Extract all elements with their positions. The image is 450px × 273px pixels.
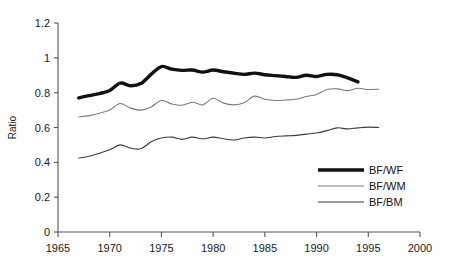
series-line-BF-WF bbox=[79, 66, 358, 98]
x-tick-label: 1985 bbox=[253, 242, 277, 254]
y-tick-label: 0.4 bbox=[35, 156, 50, 168]
y-tick-label: 1 bbox=[44, 52, 50, 64]
y-axis-title: Ratio bbox=[7, 115, 18, 139]
y-tick-label: 1.2 bbox=[35, 17, 50, 29]
y-tick-label: 0.2 bbox=[35, 191, 50, 203]
legend-label-BF-WF: BF/WF bbox=[369, 164, 403, 176]
x-tick-label: 1995 bbox=[356, 242, 380, 254]
y-tick-label: 0.8 bbox=[35, 87, 50, 99]
x-tick-label: 1975 bbox=[149, 242, 173, 254]
x-tick-label: 1970 bbox=[97, 242, 121, 254]
y-tick-label: 0.6 bbox=[35, 122, 50, 134]
ratio-line-chart: 00.20.40.60.811.219651970197519801985199… bbox=[0, 0, 450, 273]
x-tick-label: 1965 bbox=[46, 242, 70, 254]
y-tick-label: 0 bbox=[44, 226, 50, 238]
legend-label-BF-BM: BF/BM bbox=[369, 196, 403, 208]
series-line-BF-WM bbox=[79, 88, 379, 117]
x-tick-label: 2000 bbox=[408, 242, 432, 254]
series-line-BF-BM bbox=[79, 127, 379, 158]
x-tick-label: 1990 bbox=[304, 242, 328, 254]
legend-label-BF-WM: BF/WM bbox=[369, 180, 406, 192]
chart-canvas: 00.20.40.60.811.219651970197519801985199… bbox=[0, 0, 450, 273]
x-tick-label: 1980 bbox=[201, 242, 225, 254]
